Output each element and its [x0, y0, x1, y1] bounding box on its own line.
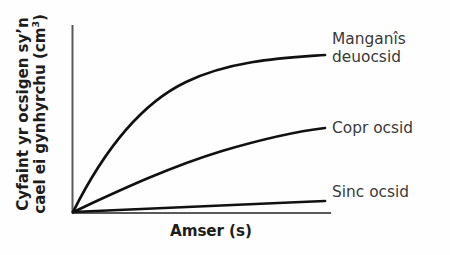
y-axis-title-line2: cael ei gynhyrchu (cm3) — [32, 14, 49, 214]
chart-figure: Cyfaint yr ocsigen sy’n cael ei gynhyrch… — [0, 0, 450, 255]
y-axis-title: Cyfaint yr ocsigen sy’n cael ei gynhyrch… — [1, 0, 63, 234]
y-axis-title-line2-text: cael ei gynhyrchu (cm — [31, 28, 49, 214]
y-axis-title-line1: Cyfaint yr ocsigen sy’n — [15, 17, 32, 210]
curve-label-copper-oxide: Copr ocsid — [332, 119, 413, 137]
x-axis-title: Amser (s) — [170, 222, 252, 240]
y-axis-title-line2-close: ) — [31, 14, 49, 21]
curve-label-manganese-dioxide: Manganîs deuocsid — [332, 30, 406, 66]
curve-copper-oxide — [73, 128, 325, 212]
curve-label-zinc-oxide: Sinc ocsid — [332, 183, 409, 201]
curve-label-manganese-line2: deuocsid — [332, 48, 406, 66]
y-axis-unit-exponent: 3 — [30, 21, 41, 27]
curve-label-manganese-line1: Manganîs — [332, 30, 406, 48]
curve-zinc-oxide — [73, 201, 325, 212]
